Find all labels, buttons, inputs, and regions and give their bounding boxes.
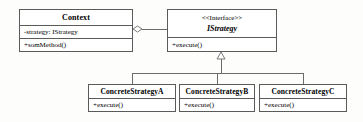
istrategy-operation-execute: +execute() — [168, 39, 276, 51]
generalization-drop-line-b — [217, 73, 218, 84]
context-attributes-compartment: -strategy: IStrategy — [20, 25, 132, 38]
aggregation-open-diamond-icon — [133, 26, 142, 32]
concretestrategyc-operation-execute: +execute() — [260, 99, 346, 111]
concretestrategyb-operations-compartment: +execute() — [180, 98, 254, 111]
uml-class-diagram-canvas: Context -strategy: IStrategy +somMethod(… — [0, 0, 363, 122]
concretestrategyc-class-name: ConcreteStrategyC — [260, 85, 346, 98]
istrategy-name-compartment: <<Interface>> IStrategy — [168, 10, 276, 37]
class-box-istrategy[interactable]: <<Interface>> IStrategy +execute() — [167, 9, 277, 52]
context-class-name: Context — [20, 11, 132, 24]
generalization-drop-line-c — [303, 73, 304, 84]
context-operation-sommethod: +somMethod() — [20, 40, 132, 51]
concretestrategya-class-name: ConcreteStrategyA — [89, 85, 175, 98]
class-box-concretestrategyc[interactable]: ConcreteStrategyC +execute() — [259, 84, 347, 112]
aggregation-connector-line — [142, 29, 167, 30]
istrategy-operations-compartment: +execute() — [168, 37, 276, 51]
generalization-stem-line — [221, 59, 222, 73]
context-name-compartment: Context — [20, 10, 132, 25]
concretestrategyb-operation-execute: +execute() — [180, 99, 254, 111]
generalization-hollow-triangle-icon — [217, 52, 225, 59]
concretestrategya-operations-compartment: +execute() — [89, 98, 175, 111]
concretestrategyb-name-compartment: ConcreteStrategyB — [180, 85, 254, 98]
concretestrategya-name-compartment: ConcreteStrategyA — [89, 85, 175, 98]
generalization-drop-line-a — [132, 73, 133, 84]
concretestrategyc-name-compartment: ConcreteStrategyC — [260, 85, 346, 98]
class-box-concretestrategyb[interactable]: ConcreteStrategyB +execute() — [179, 84, 255, 112]
context-operations-compartment: +somMethod() — [20, 38, 132, 51]
concretestrategyb-class-name: ConcreteStrategyB — [180, 85, 254, 98]
istrategy-class-name: IStrategy — [168, 23, 276, 34]
context-attribute-strategy: -strategy: IStrategy — [20, 27, 132, 38]
class-box-context[interactable]: Context -strategy: IStrategy +somMethod(… — [19, 9, 133, 52]
concretestrategya-operation-execute: +execute() — [89, 99, 175, 111]
concretestrategyc-operations-compartment: +execute() — [260, 98, 346, 111]
class-box-concretestrategya[interactable]: ConcreteStrategyA +execute() — [88, 84, 176, 112]
istrategy-stereotype: <<Interface>> — [168, 13, 276, 23]
